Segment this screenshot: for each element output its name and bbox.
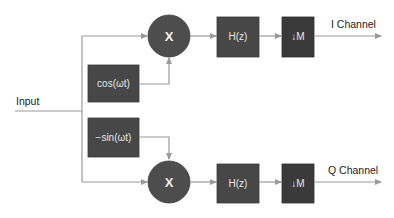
i-filter-label: H(z): [229, 31, 248, 42]
q-mixer-symbol: X: [165, 175, 174, 190]
cos-oscillator-block: cos(ωt): [88, 65, 139, 102]
sin-to-mixer-arrow: [139, 137, 169, 159]
i-channel-label: I Channel: [331, 18, 376, 30]
q-channel-label: Q Channel: [328, 164, 378, 176]
i-decimator-block: ↓M: [282, 17, 314, 57]
q-filter-block: H(z): [217, 164, 259, 203]
i-decimator-label: ↓M: [291, 31, 304, 42]
i-mixer: X: [148, 15, 190, 57]
q-decimator-label: ↓M: [291, 178, 304, 189]
sin-label: −sin(ωt): [96, 132, 132, 143]
iq-demodulator-diagram: Input cos(ωt) −sin(ωt) X X H(z) ↓M I Cha…: [0, 0, 394, 218]
q-decimator-block: ↓M: [282, 164, 314, 203]
input-label: Input: [16, 95, 39, 107]
i-filter-block: H(z): [217, 17, 259, 57]
cos-to-mixer-arrow: [139, 58, 169, 84]
cos-label: cos(ωt): [97, 78, 130, 89]
sin-oscillator-block: −sin(ωt): [88, 118, 139, 157]
q-mixer: X: [148, 161, 190, 203]
q-filter-label: H(z): [229, 178, 248, 189]
i-mixer-symbol: X: [165, 29, 174, 44]
